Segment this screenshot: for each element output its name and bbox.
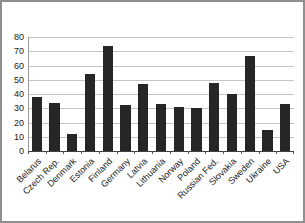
y-axis-line (28, 37, 29, 151)
y-tick-label: 60 (4, 61, 24, 70)
bar-sweden (245, 56, 255, 151)
y-tick-label: 70 (4, 47, 24, 56)
bar-denmark (67, 134, 77, 151)
bar-estonia (85, 74, 95, 151)
x-axis-tick (28, 151, 29, 154)
x-axis-tick (223, 151, 224, 154)
bar-finland (103, 46, 113, 151)
x-axis-tick (117, 151, 118, 154)
x-axis-tick (188, 151, 189, 154)
bar-germany (120, 105, 130, 151)
x-axis-tick (63, 151, 64, 154)
bar-slovakia (227, 94, 237, 151)
bar-latvia (138, 84, 148, 151)
bar-czech-rep- (49, 103, 59, 151)
x-axis-tick (134, 151, 135, 154)
x-axis-tick (99, 151, 100, 154)
plot-area (28, 37, 294, 151)
bar-poland (191, 108, 201, 151)
x-axis-tick (170, 151, 171, 154)
bar-norway (174, 107, 184, 151)
y-tick-label: 0 (4, 147, 24, 156)
x-axis-line (28, 151, 294, 153)
x-axis-tick (293, 151, 294, 154)
gridline (28, 37, 294, 38)
y-tick-label: 20 (4, 118, 24, 127)
x-axis-tick (152, 151, 153, 154)
bar-lithuania (156, 104, 166, 151)
bar-ukraine (262, 130, 272, 151)
bar-russian-fed- (209, 83, 219, 151)
bar-usa (280, 104, 290, 151)
x-axis-tick (81, 151, 82, 154)
y-tick-label: 50 (4, 75, 24, 84)
bar-chart: 01020304050607080 BelarusCzech Rep.Denma… (2, 2, 303, 221)
y-tick-label: 40 (4, 90, 24, 99)
chart-frame: 01020304050607080 BelarusCzech Rep.Denma… (0, 0, 305, 223)
x-tick-label: USA (272, 157, 291, 176)
x-axis-tick (276, 151, 277, 154)
gridline (28, 51, 294, 52)
y-tick-label: 10 (4, 132, 24, 141)
y-tick-label: 80 (4, 33, 24, 42)
bar-belarus (32, 97, 42, 151)
x-axis-tick (241, 151, 242, 154)
x-axis-tick (46, 151, 47, 154)
x-axis-tick (205, 151, 206, 154)
y-tick-label: 30 (4, 104, 24, 113)
x-axis-tick (259, 151, 260, 154)
